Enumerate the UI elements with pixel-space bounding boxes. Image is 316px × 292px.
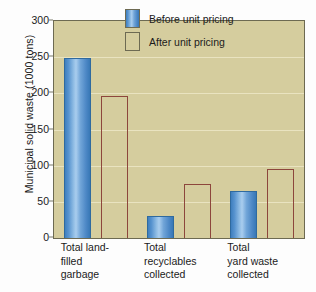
bar: [230, 191, 257, 238]
legend-item: After unit pricing: [125, 31, 275, 52]
x-axis-category-label-line: filled: [61, 255, 109, 269]
y-axis-tick-mark: [49, 20, 53, 21]
legend-item: Before unit pricing: [125, 8, 275, 29]
y-axis-tick-label: 150: [16, 123, 49, 135]
x-axis-category-label: Totalyard wastecollected: [227, 241, 278, 282]
y-axis-tick-label: 0: [16, 231, 49, 243]
y-axis-tick-mark: [49, 164, 53, 165]
bar: [147, 216, 174, 238]
legend-label: Before unit pricing: [149, 13, 234, 25]
bar: [267, 169, 294, 238]
x-axis-category-label: Total land-filledgarbage: [61, 241, 109, 282]
legend-swatch: [125, 9, 140, 28]
legend-swatch: [125, 32, 140, 51]
y-axis-tick-label: 100: [16, 159, 49, 171]
y-axis-tick-mark: [49, 56, 53, 57]
x-axis-category-label-line: Total land-: [61, 241, 109, 255]
x-axis-category-label-line: collected: [144, 268, 197, 282]
y-axis-tick-mark: [49, 128, 53, 129]
y-axis-tick-mark: [49, 200, 53, 201]
bar: [64, 58, 91, 238]
x-axis-category-label-line: yard waste: [227, 255, 278, 269]
y-axis-tick-mark: [49, 237, 53, 238]
x-axis-category-labels: Total land-filledgarbageTotalrecyclables…: [53, 241, 303, 289]
chart-legend: Before unit pricingAfter unit pricing: [125, 8, 275, 54]
y-axis-tick-label: 250: [16, 50, 49, 62]
x-axis-category-label-line: collected: [227, 268, 278, 282]
y-axis-tick-labels: 050100150200250300: [16, 20, 49, 237]
bar: [101, 96, 128, 238]
x-axis-category-label-line: Total: [227, 241, 278, 255]
x-axis-category-label: Totalrecyclablescollected: [144, 241, 197, 282]
y-axis-tick-label: 300: [16, 14, 49, 26]
bar-chart: Municipal solid waste (1000 tons) 050100…: [0, 0, 316, 292]
legend-label: After unit pricing: [149, 36, 225, 48]
x-axis-category-label-line: garbage: [61, 268, 109, 282]
y-axis-tick-mark: [49, 92, 53, 93]
x-axis-category-label-line: recyclables: [144, 255, 197, 269]
y-axis-tick-label: 50: [16, 195, 49, 207]
x-axis-category-label-line: Total: [144, 241, 197, 255]
bar: [184, 184, 211, 238]
y-axis-tick-label: 200: [16, 86, 49, 98]
